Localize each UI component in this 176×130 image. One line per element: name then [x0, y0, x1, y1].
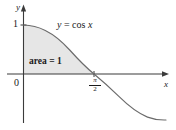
y-tick-label-one: 1	[13, 19, 18, 29]
two-denominator: 2	[89, 86, 101, 93]
y-axis-arrowhead	[21, 5, 26, 12]
function-label-equals-cos: = cos	[61, 19, 87, 30]
y-axis-label: y	[16, 3, 20, 12]
area-annotation-label: area = 1	[29, 57, 62, 67]
cosine-area-figure: y x 1 0 y = cos x area = 1 π 2	[0, 0, 176, 130]
x-tick-label-pi-over-two: π 2	[89, 77, 101, 94]
shaded-area-region	[24, 25, 95, 74]
x-axis-label: x	[164, 80, 168, 89]
origin-label-zero: 0	[14, 78, 19, 88]
function-label-x: x	[88, 19, 92, 30]
x-axis-arrowhead	[162, 71, 169, 76]
pi-numerator: π	[89, 77, 101, 84]
function-label: y = cos x	[57, 20, 92, 30]
